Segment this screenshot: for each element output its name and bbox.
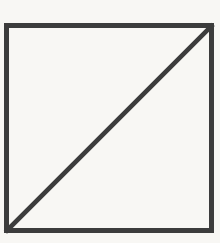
drawing-canvas (0, 0, 220, 243)
square-with-diagonal-figure (0, 0, 220, 243)
